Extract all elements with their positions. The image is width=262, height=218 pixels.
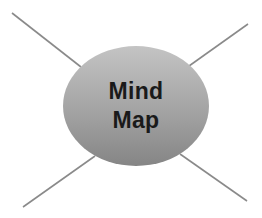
central-node-label-line1: Mind: [109, 77, 164, 106]
central-node-label: Mind Map: [63, 46, 209, 166]
central-node-label-line2: Map: [113, 106, 160, 135]
